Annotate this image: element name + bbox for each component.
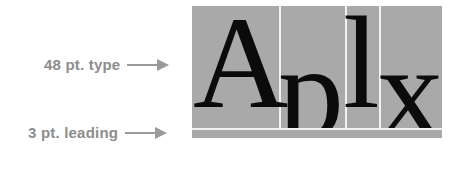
glyph-letter: l: [343, 6, 380, 128]
letter-cells: A p l x: [192, 6, 442, 128]
right-arrow-icon: [127, 59, 169, 71]
annotation-type-size: 48 pt. type: [44, 57, 169, 72]
diagram-canvas: 48 pt. type 3 pt. leading A p l: [0, 0, 458, 169]
type-size-block: A p l x: [192, 6, 442, 128]
glyph-letter: A: [193, 6, 288, 128]
type-specimen-panel: A p l x: [192, 6, 442, 138]
leading-strip: [192, 130, 442, 138]
glyph-letter: p: [278, 26, 344, 128]
letter-cell: x: [381, 6, 442, 128]
glyph-letter: x: [377, 26, 442, 128]
letter-cell: p: [281, 6, 347, 128]
letter-cell: l: [347, 6, 381, 128]
right-arrow-icon: [125, 127, 167, 139]
annotation-type-size-label: 48 pt. type: [44, 57, 120, 72]
annotation-leading: 3 pt. leading: [28, 125, 167, 140]
annotation-leading-label: 3 pt. leading: [28, 125, 118, 140]
letter-cell: A: [192, 6, 281, 128]
